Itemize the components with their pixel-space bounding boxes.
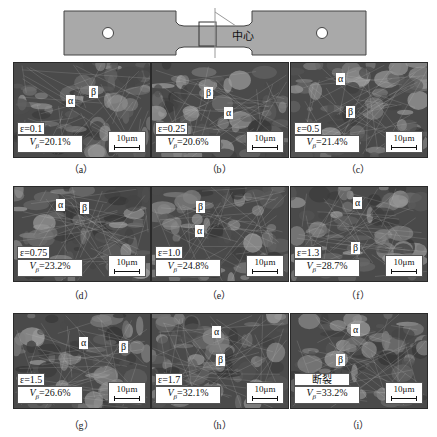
beta-fraction-label: Vβ=33.2%: [294, 386, 360, 404]
panel-caption-c: （c）: [290, 161, 426, 176]
alpha-phase-label: α: [212, 326, 221, 338]
micrograph-panel-f: αβε=1.3Vβ=28.7%10μm: [290, 186, 428, 282]
alpha-phase-label: α: [56, 199, 65, 211]
scale-bar: 10μm: [108, 382, 146, 404]
strain-label: ε=1.7: [155, 373, 183, 386]
micrograph-panel-c: αβε=0.5Vβ=21.4%10μm: [290, 62, 428, 158]
beta-fraction-label: Vβ=20.6%: [155, 135, 221, 153]
pin-hole-left: [103, 28, 114, 39]
beta-phase-label: β: [351, 242, 360, 254]
alpha-phase-label: α: [353, 197, 362, 209]
strain-label: ε=0.1: [17, 122, 45, 135]
center-label: 中心: [232, 27, 254, 43]
panel-caption-h: （h）: [151, 417, 287, 432]
beta-phase-label: β: [119, 341, 128, 353]
strain-label: ε=0.75: [17, 246, 50, 259]
alpha-phase-label: α: [336, 73, 345, 85]
beta-phase-label: β: [336, 354, 345, 366]
panel-caption-b: （b）: [151, 161, 287, 176]
alpha-phase-label: α: [351, 324, 360, 336]
scale-bar: 10μm: [108, 131, 146, 153]
micrograph-panel-d: αβε=0.75Vβ=23.2%10μm: [13, 186, 151, 282]
micrograph-panel-i: αβ断裂Vβ=33.2%10μm: [290, 313, 428, 409]
scale-bar: 10μm: [108, 255, 146, 277]
micrograph-panel-a: αβε=0.1Vβ=20.1%10μm: [13, 62, 151, 158]
panel-caption-f: （f）: [290, 287, 426, 302]
scale-bar: 10μm: [385, 382, 423, 404]
strain-label: ε=1.5: [17, 373, 45, 386]
beta-fraction-label: Vβ=26.6%: [17, 386, 83, 404]
scale-bar: 10μm: [385, 255, 423, 277]
strain-label: ε=0.5: [294, 122, 322, 135]
beta-fraction-label: Vβ=20.1%: [17, 135, 83, 153]
panel-caption-a: （a）: [13, 161, 149, 176]
beta-fraction-label: Vβ=28.7%: [294, 259, 360, 277]
alpha-phase-label: α: [66, 95, 75, 107]
strain-label: 断裂: [294, 373, 350, 386]
pin-hole-right: [317, 28, 328, 39]
scale-bar: 10μm: [246, 255, 284, 277]
beta-phase-label: β: [346, 106, 355, 118]
scale-bar: 10μm: [246, 131, 284, 153]
micrograph-panel-h: αβε=1.7Vβ=32.1%10μm: [151, 313, 289, 409]
beta-phase-label: β: [196, 201, 205, 213]
panel-caption-i: （i）: [290, 417, 426, 432]
micrograph-panel-e: αβε=1.0Vβ=24.8%10μm: [151, 186, 289, 282]
alpha-phase-label: α: [224, 107, 233, 119]
micrograph-panel-g: αβε=1.5Vβ=26.6%10μm: [13, 313, 151, 409]
beta-fraction-label: Vβ=21.4%: [294, 135, 360, 153]
beta-fraction-label: Vβ=23.2%: [17, 259, 83, 277]
panel-caption-e: （e）: [151, 287, 287, 302]
beta-fraction-label: Vβ=32.1%: [155, 386, 221, 404]
micrograph-panel-b: αβε=0.25Vβ=20.6%10μm: [151, 62, 289, 158]
alpha-phase-label: α: [195, 225, 204, 237]
beta-phase-label: β: [89, 86, 98, 98]
scale-bar: 10μm: [246, 382, 284, 404]
strain-label: ε=0.25: [155, 122, 188, 135]
beta-fraction-label: Vβ=24.8%: [155, 259, 221, 277]
beta-phase-label: β: [80, 202, 89, 214]
panel-caption-d: （d）: [13, 287, 149, 302]
scale-bar: 10μm: [385, 131, 423, 153]
panel-caption-g: （g）: [13, 417, 149, 432]
alpha-phase-label: α: [79, 337, 88, 349]
strain-label: ε=1.0: [155, 246, 183, 259]
specimen-schematic: [0, 0, 437, 60]
beta-phase-label: β: [204, 87, 213, 99]
beta-phase-label: β: [216, 354, 225, 366]
strain-label: ε=1.3: [294, 246, 322, 259]
